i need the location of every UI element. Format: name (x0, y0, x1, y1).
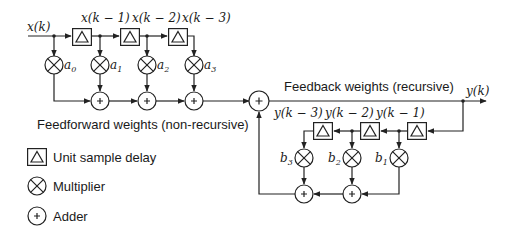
legend-adder-label: Adder (53, 209, 88, 224)
weight-a2: a2 (157, 58, 169, 74)
fb-to-main-adder (259, 112, 295, 194)
legend-multiplier-label: Multiplier (53, 179, 106, 194)
ff-multiplier-1-icon (91, 56, 109, 74)
legend-multiplier-icon (28, 177, 46, 195)
weight-a0: a0 (64, 58, 76, 74)
weight-b1: b1 (375, 151, 388, 167)
ff-wire-d3-m3 (188, 36, 194, 56)
ff-delay-1-icon (73, 29, 92, 46)
feedforward-section: x(k) x(k − 1) x(k − 2) x(k − 3) (27, 11, 249, 132)
ff-multiplier-2-icon (138, 56, 156, 74)
ff-delay-label-1: x(k − 1) (81, 11, 130, 25)
fb-delay-label-3: y(k − 3) (273, 106, 323, 120)
ff-m0-to-add (54, 74, 90, 101)
ff-delay-3-icon (169, 29, 188, 46)
ff-multiplier-3-icon (185, 56, 203, 74)
main-adder-icon (249, 91, 269, 111)
ff-multiplier-0-icon (45, 56, 63, 74)
legend-adder-icon (28, 207, 46, 225)
fb-delay-2-icon (361, 123, 380, 140)
fb-delay-label-1: y(k − 1) (375, 106, 425, 120)
fb-wire-d3-m3 (304, 131, 313, 148)
output-label: y(k) (465, 84, 490, 98)
input-label: x(k) (27, 20, 51, 34)
feedforward-caption: Feedforward weights (non-recursive) (37, 117, 249, 132)
feedback-caption: Feedback weights (recursive) (284, 79, 454, 94)
legend: Unit sample delay Multiplier Adder (28, 149, 157, 225)
ff-adder-3-icon (185, 92, 203, 110)
ff-adder-2-icon (138, 92, 156, 110)
fb-multiplier-1-icon (390, 149, 408, 167)
weight-a1: a1 (110, 58, 122, 74)
legend-delay-icon (28, 149, 47, 166)
fb-delay-label-2: y(k − 2) (324, 106, 374, 120)
weight-b2: b2 (328, 151, 341, 167)
ff-delay-label-3: x(k − 3) (182, 11, 231, 25)
weight-b3: b3 (280, 151, 293, 167)
fb-m1-to-add (362, 167, 399, 194)
ff-adder-1-icon (91, 92, 109, 110)
fb-delay-1-icon (408, 123, 427, 140)
ff-delay-label-2: x(k − 2) (132, 11, 181, 25)
weight-a3: a3 (204, 58, 216, 74)
ff-delay-2-icon (121, 29, 140, 46)
fb-wire-out-to-d1 (428, 101, 463, 131)
fb-delay-3-icon (314, 123, 333, 140)
iir-filter-diagram: x(k) x(k − 1) x(k − 2) x(k − 3) (0, 0, 513, 236)
legend-delay-label: Unit sample delay (53, 150, 157, 165)
fb-multiplier-2-icon (343, 149, 361, 167)
feedback-section: y(k − 3) y(k − 2) y(k − 1) b3 b2 b1 (259, 101, 463, 203)
fb-multiplier-3-icon (295, 149, 313, 167)
fb-adder-1-icon (295, 185, 313, 203)
fb-adder-2-icon (343, 185, 361, 203)
